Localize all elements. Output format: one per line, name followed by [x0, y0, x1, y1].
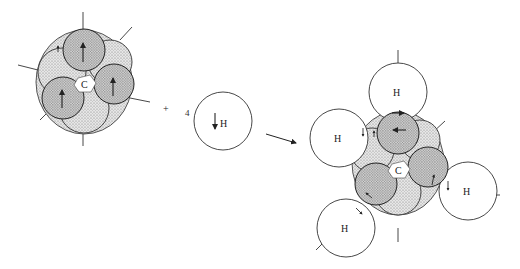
reaction-arrow [266, 134, 296, 143]
h-right-label: H [463, 186, 470, 197]
h-upper-left-label: H [334, 133, 341, 144]
carbon-label: C [81, 79, 88, 90]
carbon-atom: C [18, 12, 150, 146]
methane-product: H H H H C [310, 50, 500, 257]
hydrogen-label: H [220, 118, 227, 129]
reaction-diagram: C + 4 H H H H H [0, 0, 520, 269]
coefficient: 4 [185, 108, 190, 118]
h-lower-left-label: H [341, 223, 348, 234]
plus-operator: + [163, 103, 169, 114]
product-carbon-label: C [395, 165, 402, 176]
h-top-label: H [393, 87, 400, 98]
hydrogen-reactant: 4 H [185, 92, 252, 150]
